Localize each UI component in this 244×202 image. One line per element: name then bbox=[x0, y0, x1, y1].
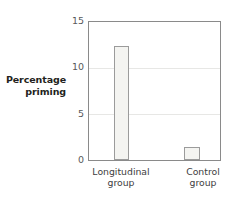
x-category-label-control-group-line-1: Control bbox=[186, 166, 220, 177]
x-category-label-longitudinal-group: Longitudinal group bbox=[75, 166, 167, 188]
y-tick-label-5: 5 bbox=[60, 109, 84, 119]
x-category-label-control-group-line-2: group bbox=[157, 177, 244, 188]
bar-longitudinal-group bbox=[114, 46, 129, 160]
bar-control-group bbox=[184, 147, 200, 160]
y-tick-label-15: 15 bbox=[60, 16, 84, 26]
y-tick-label-10: 10 bbox=[60, 62, 84, 72]
y-axis-title: Percentage priming bbox=[0, 74, 66, 97]
y-axis-title-line-1: Percentage bbox=[6, 74, 66, 85]
gridline-10 bbox=[89, 68, 220, 69]
gridline-5 bbox=[89, 114, 220, 115]
bar-chart: Percentage priming 15 10 5 0 Longitudina… bbox=[0, 0, 244, 202]
y-tick-label-0: 0 bbox=[60, 155, 84, 165]
x-category-label-longitudinal-group-line-1: Longitudinal bbox=[92, 166, 149, 177]
x-category-label-longitudinal-group-line-2: group bbox=[75, 177, 167, 188]
plot-area bbox=[88, 21, 221, 161]
y-axis-title-line-2: priming bbox=[25, 86, 66, 97]
x-category-label-control-group: Control group bbox=[157, 166, 244, 188]
